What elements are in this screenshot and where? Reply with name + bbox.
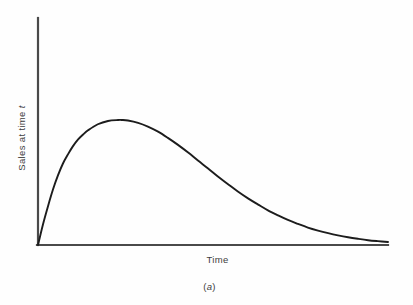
y-axis-label-text: Sales at time: [16, 108, 27, 170]
y-axis-label-variable: t: [16, 105, 27, 108]
y-axis-label-container: Sales at time t: [14, 100, 28, 176]
y-axis-label: Sales at time t: [16, 105, 27, 170]
figure-caption: (a): [0, 281, 413, 292]
caption-suffix: ): [212, 281, 216, 292]
sales-curve-path: [38, 120, 388, 245]
figure-panel: Sales at time t Time (a): [0, 0, 413, 305]
x-axis-label: Time: [0, 254, 413, 265]
